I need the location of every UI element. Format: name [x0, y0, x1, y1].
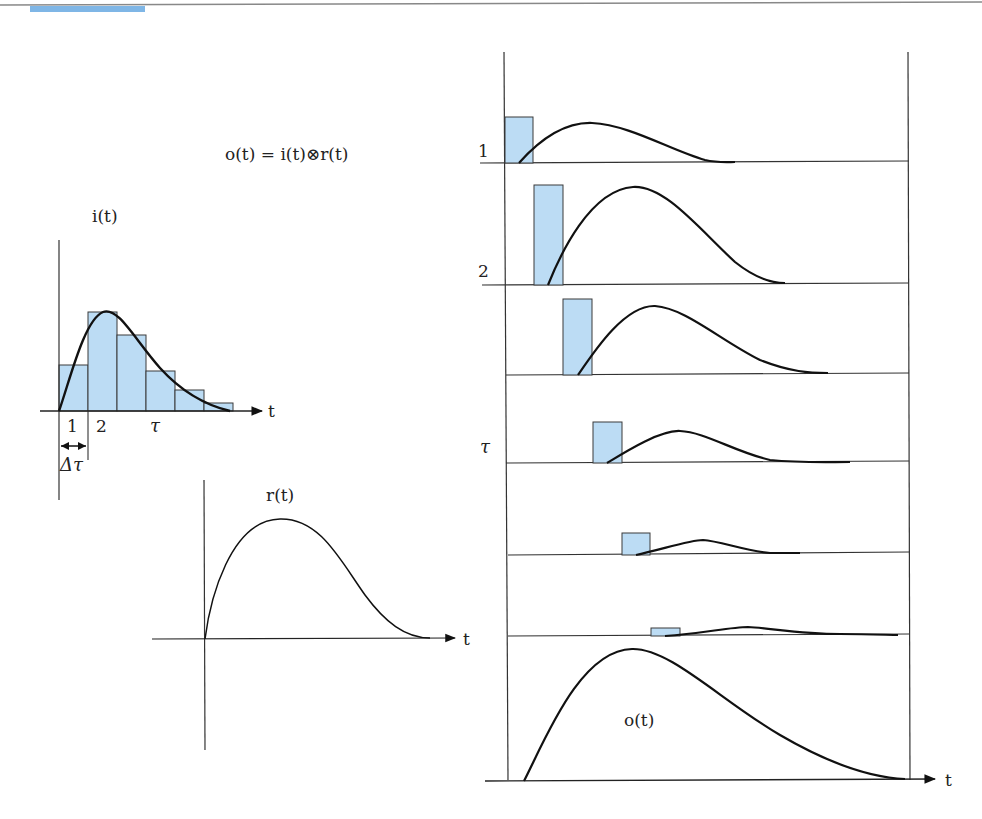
response-axis-label: t — [463, 629, 470, 649]
output-label: o(t) — [624, 710, 654, 730]
input-panel: i(t) t 1 2 τ Δτ — [40, 206, 275, 500]
convolution-diagram: o(t) = i(t)⊗r(t) i(t) t 1 2 τ Δτ — [0, 0, 982, 819]
tick-1: 1 — [67, 416, 78, 436]
tick-tau: τ — [150, 415, 161, 436]
stack-panel: t 1 2 τ o(t) — [478, 52, 952, 790]
input-bars — [59, 312, 233, 411]
input-axis-label: t — [268, 401, 275, 421]
row-label-1: 1 — [478, 141, 489, 161]
stack-axis-label: t — [945, 770, 952, 790]
row-label-2: 2 — [478, 261, 489, 281]
row-label-tau: τ — [480, 436, 491, 457]
response-label: r(t) — [266, 485, 294, 505]
header-rule — [0, 2, 982, 12]
delta-tau-label: Δτ — [59, 454, 84, 475]
tick-2: 2 — [96, 416, 107, 436]
input-label: i(t) — [92, 206, 118, 226]
equation-label: o(t) = i(t)⊗r(t) — [225, 144, 348, 164]
response-panel: t r(t) — [152, 480, 470, 750]
